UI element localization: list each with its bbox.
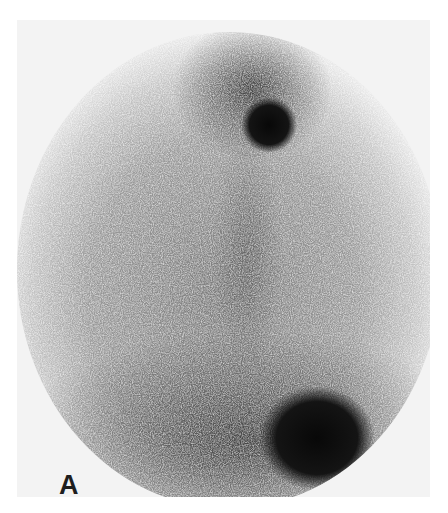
scintigraphy-image: A [17, 20, 430, 497]
panel-label: A [59, 472, 79, 497]
upper-focal-uptake [241, 97, 297, 153]
scan-field [17, 20, 430, 497]
lower-right-uptake [259, 386, 375, 490]
